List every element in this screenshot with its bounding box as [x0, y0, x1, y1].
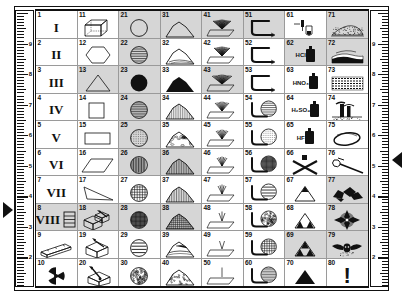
symbol-cell[interactable]: 34 — [161, 94, 203, 122]
symbol-cell[interactable]: 36 — [161, 149, 203, 177]
symbol-cell[interactable]: 74 — [327, 94, 369, 122]
symbol-cell[interactable]: 78 — [327, 204, 369, 232]
symbol-cell[interactable]: 53 — [244, 66, 286, 94]
symbol-cell[interactable]: 44 — [202, 94, 244, 122]
symbol-cell[interactable]: 49 — [202, 231, 244, 259]
ruler-tick — [17, 245, 24, 246]
symbol-cell[interactable]: 47 — [202, 176, 244, 204]
symbol-cell[interactable]: 80! — [327, 259, 369, 287]
symbol-cell[interactable]: 13 — [78, 66, 120, 94]
symbol-cell[interactable]: 24 — [119, 94, 161, 122]
ruler-tick — [17, 129, 24, 130]
symbol-cell[interactable]: 54 — [244, 94, 286, 122]
symbol-cell[interactable]: 51 — [244, 11, 286, 39]
symbol-cell[interactable]: 79 — [327, 231, 369, 259]
symbol-cell[interactable]: 43 — [202, 66, 244, 94]
symbol-cell[interactable]: 1I — [36, 11, 78, 39]
symbol-cell[interactable]: 35 — [161, 121, 203, 149]
symbol-cell[interactable]: 56 — [244, 149, 286, 177]
symbol-cell[interactable]: 15 — [78, 121, 120, 149]
ruler-tick — [17, 44, 28, 45]
ruler-tick — [17, 154, 24, 155]
symbol-cell[interactable]: 62HCl — [285, 39, 327, 67]
symbol-cell[interactable]: 21 — [119, 11, 161, 39]
symbol-cell[interactable]: 41 — [202, 11, 244, 39]
symbol-cell[interactable]: 2II — [36, 39, 78, 67]
symbol-cell[interactable]: 9 — [36, 231, 78, 259]
symbol-cell[interactable]: 31 — [161, 11, 203, 39]
symbol-cell[interactable]: 59 — [244, 231, 286, 259]
symbol-cell[interactable]: 17 — [78, 176, 120, 204]
symbol-cell[interactable]: 65HF — [285, 121, 327, 149]
symbol-cell[interactable]: 63HNO₃ — [285, 66, 327, 94]
symbol-cell[interactable]: 10 — [36, 259, 78, 287]
ruler-tick — [382, 178, 389, 179]
bent-pipe-long-icon — [244, 73, 285, 93]
symbol-cell[interactable]: 58 — [244, 204, 286, 232]
symbol-cell[interactable]: 73 — [327, 66, 369, 94]
symbol-cell[interactable]: 19 — [78, 231, 120, 259]
symbol-cell[interactable]: 18 — [78, 204, 120, 232]
symbol-cell[interactable]: 28 — [119, 204, 161, 232]
symbol-cell[interactable]: 11 — [78, 11, 120, 39]
symbol-cell[interactable]: 64H₂SO₄ — [285, 94, 327, 122]
symbol-cell[interactable]: 39 — [161, 231, 203, 259]
symbol-cell[interactable]: 37 — [161, 176, 203, 204]
ruler-tick — [382, 129, 389, 130]
symbol-cell[interactable]: 22 — [119, 39, 161, 67]
symbol-cell[interactable]: 57 — [244, 176, 286, 204]
reagent-bottle-icon: HF — [285, 128, 326, 148]
symbol-cell[interactable]: 23 — [119, 66, 161, 94]
symbol-cell[interactable]: 66 — [285, 149, 327, 177]
symbol-cell[interactable]: 3III — [36, 66, 78, 94]
symbol-cell[interactable]: 61 — [285, 11, 327, 39]
symbol-cell[interactable]: 38 — [161, 204, 203, 232]
symbol-cell[interactable]: 67 — [285, 176, 327, 204]
symbol-cell[interactable]: 25 — [119, 121, 161, 149]
symbol-cell[interactable]: 75 — [327, 121, 369, 149]
ruler-tick — [380, 212, 389, 213]
symbol-cell[interactable]: 7VII — [36, 176, 78, 204]
symbol-cell[interactable]: 77 — [327, 176, 369, 204]
bottle-icon — [309, 76, 318, 89]
symbol-cell[interactable]: 6VI — [36, 149, 78, 177]
symbol-cell[interactable]: 33 — [161, 66, 203, 94]
ruler-tick — [17, 34, 24, 35]
symbol-cell[interactable]: 69 — [285, 231, 327, 259]
symbol-cell[interactable]: 68 — [285, 204, 327, 232]
ruler-tick — [17, 196, 28, 197]
ruler-tick — [17, 169, 24, 170]
symbol-cell[interactable]: 45 — [202, 121, 244, 149]
bottle-crossed-out-icon — [285, 156, 326, 176]
symbol-cell[interactable]: 40 — [161, 259, 203, 287]
symbol-cell[interactable]: 12 — [78, 39, 120, 67]
symbol-cell[interactable]: 26 — [119, 149, 161, 177]
symbol-cell[interactable]: 20 — [78, 259, 120, 287]
symbol-cell[interactable]: 52 — [244, 39, 286, 67]
ruler-tick — [378, 196, 389, 197]
ruler-tick — [382, 184, 389, 185]
ruler-tick — [17, 279, 24, 280]
ruler-tick — [382, 126, 389, 127]
ruler-tick — [380, 120, 389, 121]
symbol-cell[interactable]: 27 — [119, 176, 161, 204]
symbol-cell[interactable]: 50 — [202, 259, 244, 287]
symbol-cell[interactable]: 55 — [244, 121, 286, 149]
symbol-cell[interactable]: 48 — [202, 204, 244, 232]
symbol-cell[interactable]: 71 — [327, 11, 369, 39]
symbol-cell[interactable]: 70 — [285, 259, 327, 287]
symbol-cell[interactable]: 46 — [202, 149, 244, 177]
symbol-cell[interactable]: 42 — [202, 39, 244, 67]
timber-beam-icon — [36, 238, 77, 258]
symbol-cell[interactable]: 32 — [161, 39, 203, 67]
symbol-cell[interactable]: 16 — [78, 149, 120, 177]
symbol-cell[interactable]: 14 — [78, 94, 120, 122]
symbol-cell[interactable]: 72 — [327, 39, 369, 67]
symbol-cell[interactable]: 8VIII — [36, 204, 78, 232]
symbol-cell[interactable]: 29 — [119, 231, 161, 259]
symbol-cell[interactable]: 30 — [119, 259, 161, 287]
symbol-cell[interactable]: 4IV — [36, 94, 78, 122]
symbol-cell[interactable]: 60 — [244, 259, 286, 287]
symbol-cell[interactable]: 5V — [36, 121, 78, 149]
symbol-cell[interactable]: 76 — [327, 149, 369, 177]
